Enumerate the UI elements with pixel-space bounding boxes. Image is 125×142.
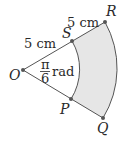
point-R — [103, 20, 107, 24]
angle-unit: rad — [52, 64, 74, 79]
sector-diagram: O S R P Q 5 cm 5 cm π 6 rad — [0, 0, 125, 142]
label-Q: Q — [97, 120, 109, 136]
label-P: P — [59, 101, 70, 117]
label-OS-length: 5 cm — [24, 36, 56, 51]
label-R: R — [105, 3, 117, 19]
angle-denominator: 6 — [41, 71, 49, 86]
label-O: O — [9, 67, 21, 83]
point-O — [21, 68, 25, 72]
label-SR-length: 5 cm — [67, 15, 99, 30]
point-P — [69, 97, 73, 101]
angle-numerator: π — [41, 57, 50, 72]
